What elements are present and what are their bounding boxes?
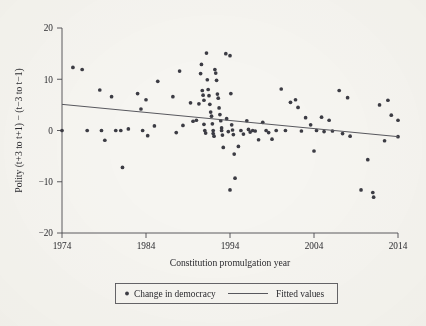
data-point: [221, 133, 225, 137]
data-point: [205, 78, 209, 82]
data-point: [60, 129, 64, 133]
data-point: [146, 134, 150, 138]
data-point: [207, 94, 211, 98]
data-point: [200, 63, 204, 67]
data-point: [110, 95, 114, 99]
data-point: [312, 149, 316, 153]
data-point: [270, 137, 274, 141]
data-point: [279, 87, 283, 91]
legend-marker-dot: [125, 292, 129, 296]
data-point: [205, 51, 209, 55]
data-point: [221, 146, 225, 150]
data-point: [119, 129, 123, 133]
data-point: [378, 103, 382, 107]
data-point: [224, 52, 228, 56]
data-point: [121, 166, 125, 170]
x-tick-label: 1994: [221, 241, 240, 251]
data-point: [231, 128, 235, 132]
data-point: [181, 124, 185, 128]
y-axis-tick-labels: 20 10 0 −10 −20: [38, 23, 53, 238]
data-point: [267, 131, 271, 135]
data-point: [98, 88, 102, 92]
data-point: [211, 122, 215, 126]
data-point: [153, 124, 157, 128]
data-point: [216, 92, 220, 96]
data-point: [327, 118, 331, 122]
data-point: [226, 130, 230, 134]
data-point: [114, 129, 118, 133]
data-point: [396, 118, 400, 122]
data-point: [284, 129, 288, 133]
data-point: [208, 103, 212, 107]
x-axis-tick-labels: 1974 1984 1994 2004 2014: [53, 241, 408, 251]
data-point: [232, 152, 236, 156]
y-tick-label: 20: [44, 23, 54, 33]
data-point: [80, 68, 84, 72]
data-point: [366, 158, 370, 162]
data-point: [220, 129, 224, 133]
data-point: [228, 188, 232, 192]
data-point: [230, 123, 234, 127]
data-point: [274, 129, 278, 133]
data-point: [216, 96, 220, 100]
data-point: [209, 110, 213, 114]
data-point: [218, 113, 222, 117]
y-tick-label: 10: [44, 75, 54, 85]
data-point: [204, 131, 208, 135]
data-point: [156, 79, 160, 83]
data-point: [237, 145, 241, 149]
data-point: [337, 89, 341, 93]
data-point: [202, 123, 206, 127]
data-point: [348, 134, 352, 138]
data-point: [346, 96, 350, 100]
data-point: [239, 129, 243, 133]
data-point: [139, 107, 143, 111]
data-point: [136, 92, 140, 96]
data-point: [210, 114, 214, 118]
data-point: [289, 100, 293, 104]
data-point: [85, 129, 89, 133]
data-point: [294, 98, 298, 102]
legend-label-fitted-values: Fitted values: [276, 289, 325, 299]
data-point: [195, 118, 199, 122]
data-point: [174, 131, 178, 135]
data-point: [233, 176, 237, 180]
data-point: [199, 72, 203, 76]
data-point: [253, 129, 257, 133]
data-point: [206, 88, 210, 92]
data-point: [372, 195, 376, 199]
chart-legend: Change in democracy Fitted values: [116, 284, 338, 304]
data-point: [191, 119, 195, 123]
data-point: [386, 98, 390, 102]
data-point: [202, 98, 206, 102]
data-point: [144, 98, 148, 102]
scatter-plot: 20 10 0 −10 −20 1974 1984 1994 2004 2014…: [0, 0, 426, 326]
x-tick-label: 1974: [53, 241, 72, 251]
y-axis-title: Polity (t+3 to t+1) − (t−3 to t−1): [13, 68, 25, 192]
data-point: [178, 69, 182, 73]
data-point: [309, 123, 313, 127]
data-point: [200, 89, 204, 93]
data-point: [197, 102, 201, 106]
y-tick-label: −10: [38, 177, 53, 187]
data-point: [232, 133, 236, 137]
x-tick-label: 2014: [389, 241, 408, 251]
data-point: [322, 130, 326, 134]
x-tick-label: 2004: [305, 241, 324, 251]
data-point: [389, 113, 393, 117]
data-point: [103, 138, 107, 142]
data-point: [242, 132, 246, 136]
x-tick-label: 1984: [137, 241, 156, 251]
data-point: [214, 71, 218, 75]
y-tick-label: −20: [38, 228, 53, 238]
data-point: [201, 93, 205, 97]
data-point: [212, 134, 216, 138]
data-point: [331, 129, 335, 133]
data-point: [296, 106, 300, 110]
data-point: [300, 129, 304, 133]
data-point: [371, 191, 375, 195]
data-point: [189, 101, 193, 105]
data-point: [217, 106, 221, 110]
x-axis-title: Constitution promulgation year: [170, 257, 291, 268]
chart-figure: 20 10 0 −10 −20 1974 1984 1994 2004 2014…: [0, 0, 426, 326]
